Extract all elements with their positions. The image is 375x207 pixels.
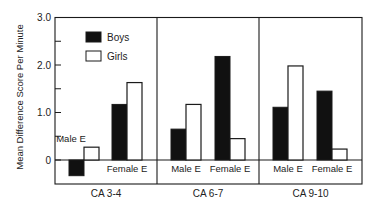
legend-swatch-girls <box>86 51 101 61</box>
y-tick-label: 1.0 <box>37 107 51 118</box>
bar-group-female-e: Female E <box>312 91 353 174</box>
bar-girls <box>186 104 201 160</box>
group-label: Male E <box>56 133 86 144</box>
panel-category-label: CA 3-4 <box>91 188 122 199</box>
y-tick-label: 0 <box>45 155 51 166</box>
legend-swatch-boys <box>86 32 101 42</box>
group-label: Male E <box>273 163 303 174</box>
bar-boys <box>171 129 186 160</box>
bar-group-female-e: Female E <box>107 83 148 174</box>
chart-panels: Male EFemale ECA 3-4Male EFemale ECA 6-7… <box>56 56 352 199</box>
bar-girls <box>332 149 347 160</box>
y-tick-label: 2.0 <box>37 60 51 71</box>
panel-ca-9-10: Male EFemale ECA 9-10 <box>273 66 352 199</box>
y-axis-label: Mean Difference Score Per Minute <box>14 24 25 170</box>
bar-boys <box>215 56 230 160</box>
panel-ca-6-7: Male EFemale ECA 6-7 <box>171 56 250 199</box>
bar-girls <box>288 66 303 160</box>
bar-group-female-e: Female E <box>210 56 251 174</box>
group-label: Female E <box>312 163 353 174</box>
chart-canvas: Mean Difference Score Per Minute 3.02.01… <box>0 0 375 207</box>
bar-girls <box>127 83 142 160</box>
legend: BoysGirls <box>86 32 129 62</box>
bar-group-male-e: Male E <box>171 104 201 174</box>
bar-boys <box>317 91 332 160</box>
bar-chart: Mean Difference Score Per Minute 3.02.01… <box>0 0 375 207</box>
bar-girls <box>230 139 245 160</box>
panel-category-label: CA 9-10 <box>292 188 329 199</box>
legend-label-girls: Girls <box>107 51 128 62</box>
group-label: Female E <box>210 163 251 174</box>
bar-group-male-e: Male E <box>273 66 303 174</box>
bar-girls <box>84 147 99 160</box>
panel-category-label: CA 6-7 <box>193 188 224 199</box>
group-label: Male E <box>171 163 201 174</box>
bar-boys <box>112 104 127 160</box>
bar-group-male-e: Male E <box>56 133 99 176</box>
bar-boys <box>69 160 84 176</box>
y-tick-label: 3.0 <box>37 12 51 23</box>
bar-boys <box>273 107 288 160</box>
panel-ca-3-4: Male EFemale ECA 3-4 <box>56 83 147 199</box>
y-axis-label-group: Mean Difference Score Per Minute <box>14 24 25 170</box>
legend-label-boys: Boys <box>107 32 129 43</box>
group-label: Female E <box>107 163 148 174</box>
